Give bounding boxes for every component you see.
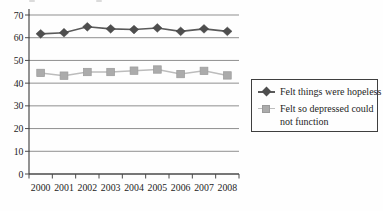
- legend-item-hopeless: Felt things were hopeless: [258, 85, 374, 98]
- diamond-marker: [153, 24, 162, 33]
- year-label: 2006: [171, 182, 191, 193]
- square-marker: [153, 66, 161, 73]
- y-tick-label: 10: [14, 146, 24, 157]
- diamond-marker: [59, 28, 68, 37]
- legend-label-hopeless: Felt things were hopeless: [280, 85, 381, 98]
- y-tick-label: 20: [14, 123, 24, 134]
- square-marker: [107, 68, 115, 75]
- square-marker: [130, 67, 138, 74]
- square-series-marker-icon: [258, 103, 275, 114]
- axis-ticks: [25, 15, 239, 179]
- diamond-marker: [223, 27, 232, 36]
- legend-item-depressed: Felt so depressed could not function: [258, 102, 374, 128]
- scan-artifact: [29, 0, 35, 2]
- square-marker: [37, 69, 45, 76]
- square-icon: [262, 105, 270, 113]
- y-tick-label: 70: [14, 10, 24, 21]
- series-depressed: [37, 66, 231, 80]
- diamond-marker: [129, 25, 138, 34]
- x-tick-labels: 200020012002200320042005200620072008: [31, 182, 237, 193]
- year-label: 2004: [124, 182, 144, 193]
- scan-artifact: [96, 0, 102, 2]
- y-tick-labels: 010203040506070: [14, 10, 24, 180]
- y-tick-label: 50: [14, 55, 24, 66]
- square-marker: [200, 67, 208, 74]
- square-marker: [177, 70, 185, 77]
- year-label: 2002: [78, 182, 98, 193]
- year-label: 2005: [148, 182, 168, 193]
- legend-label-depressed: Felt so depressed could not function: [280, 102, 374, 128]
- diamond-marker: [106, 24, 115, 33]
- diamond-marker: [199, 24, 208, 33]
- diamond-marker: [83, 22, 92, 31]
- year-label: 2003: [101, 182, 121, 193]
- gridlines: [29, 15, 239, 174]
- year-label: 2008: [218, 182, 238, 193]
- year-label: 2001: [54, 182, 74, 193]
- diamond-marker: [176, 27, 185, 36]
- square-marker: [60, 72, 68, 79]
- diamond-marker: [36, 29, 45, 38]
- y-tick-label: 0: [19, 169, 24, 180]
- year-label: 2007: [194, 182, 214, 193]
- diamond-series-marker-icon: [258, 86, 275, 97]
- y-tick-label: 60: [14, 32, 24, 43]
- year-label: 2000: [31, 182, 51, 193]
- y-tick-label: 40: [14, 78, 24, 89]
- series-hopeless: [36, 22, 232, 38]
- square-marker: [83, 68, 91, 75]
- y-tick-label: 30: [14, 100, 24, 111]
- chart-figure: 0102030405060702000200120022003200420052…: [0, 0, 383, 211]
- square-marker: [223, 72, 231, 79]
- legend: Felt things were hopeless Felt so depres…: [251, 79, 378, 132]
- diamond-icon: [261, 87, 271, 97]
